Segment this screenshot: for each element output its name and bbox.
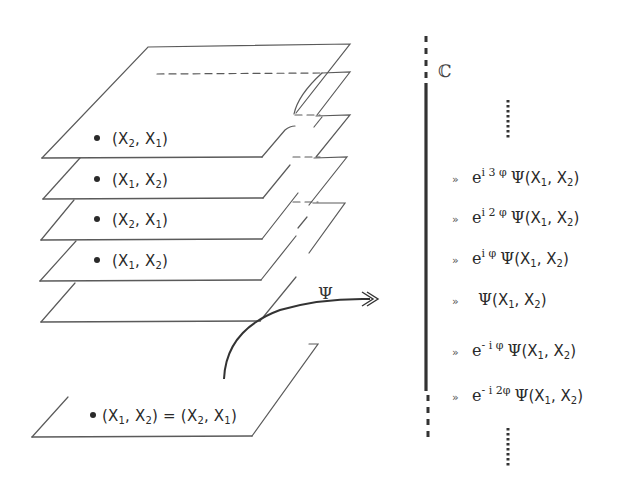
- sheet-2: [43, 72, 350, 199]
- sheet-1: [42, 44, 350, 158]
- value-phase-minus-1: »e- i φΨ(X1, X2): [452, 339, 576, 361]
- bullet-icon: »: [452, 391, 472, 404]
- diagram-canvas: (X2, X1) (X1, X2) (X2, X1) (X1, X2) (X1,…: [0, 0, 636, 495]
- complex-plane-label: ℂ: [438, 61, 452, 81]
- complex-axis: [426, 36, 428, 440]
- sheet-3-label: (X2, X1): [94, 211, 168, 230]
- sheet-1-label: (X2, X1): [94, 130, 168, 149]
- point-dot: [94, 216, 100, 222]
- value-phase-1: »ei φΨ(X1, X2): [452, 247, 569, 269]
- sheet-4-label: (X1, X2): [94, 252, 168, 271]
- value-phase-2: »ei 2 φΨ(X1, X2): [452, 206, 579, 228]
- value-phase-3: »ei 3 φΨ(X1, X2): [452, 166, 579, 188]
- bullet-icon: »: [452, 173, 472, 186]
- point-dot: [90, 412, 96, 418]
- value-phase-minus-2: »e- i 2φΨ(X1, X2): [452, 384, 583, 406]
- point-dot: [94, 176, 100, 182]
- bullet-icon: »: [452, 295, 478, 308]
- bullet-icon: »: [452, 254, 472, 267]
- bullet-icon: »: [452, 213, 472, 226]
- bullet-icon: »: [452, 346, 472, 359]
- point-dot: [94, 257, 100, 263]
- base-sheet-label: (X1, X2) = (X2, X1): [90, 407, 237, 426]
- value-phase-0: »Ψ(X1, X2): [452, 290, 547, 310]
- psi-map-arrow: [224, 292, 378, 379]
- point-dot: [94, 135, 100, 141]
- sheet-2-label: (X1, X2): [94, 171, 168, 190]
- psi-map-label: Ψ: [318, 283, 333, 303]
- sheet-4: [40, 157, 347, 281]
